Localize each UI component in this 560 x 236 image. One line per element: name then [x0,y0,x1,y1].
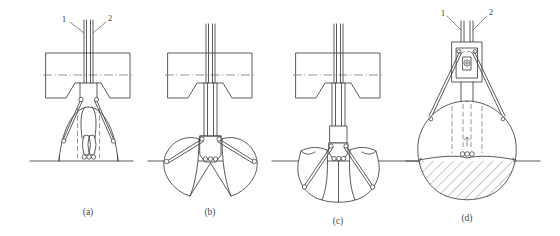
panel-a-pin-upper-right [94,97,98,101]
panel-a-pin-upper-left [79,97,83,101]
panel-b-pin-outer-left [164,159,168,163]
panel-c-pin-lower-right [370,185,374,189]
panel-d-leader-2 [473,16,487,30]
panel-b-head-block [168,53,252,98]
panel-b-pin-hinge-right [213,157,217,161]
panel-a-pin-hinge-left [82,155,86,159]
panel-a-closing-body-right [88,135,96,155]
panel-a-leader-1 [70,22,84,33]
panel-a-shell-right-lip [118,155,119,161]
caption-panel-a: (a) [83,207,94,218]
panel-d-pin-hinge-left [460,152,465,157]
panel-c-rod-sleeve [330,126,347,143]
panel-d-leader-1 [447,16,461,30]
panel-b-pin-hinge-mid [208,157,212,161]
panel-c-pin-upper-left [329,144,333,148]
panel-b-pin-hinge-left [203,157,207,161]
panel-c-pin-upper-right [344,144,348,148]
callout-2-panel-d: 2 [489,7,494,17]
panel-d-pin-shell-left [429,117,433,121]
panel-a-pin-lower-right [111,139,115,143]
panel-d [410,16,530,209]
caption-panel-c: (c) [333,216,344,227]
panel-d-hatch-area [410,161,530,209]
panel-c-pin-hinge-left [332,156,336,160]
panel-d-sheave-axle [466,62,468,64]
panel-d-pin-hinge-mid [465,152,470,157]
panel-a-pin-hinge-mid [87,155,91,159]
panel-c [293,24,383,202]
callout-1-panel-a: 1 [62,14,67,24]
panel-b-shell-left [164,138,199,196]
clamshell-bucket-figure: 1 2 1 2 (a) (b) (c) (d) [0,0,560,236]
figure-canvas: 1 2 1 2 (a) (b) (c) (d) [0,0,560,236]
panel-c-pin-hinge-right [341,156,345,160]
callout-2-panel-a: 2 [108,13,113,23]
panel-b [164,24,257,196]
panel-b-pin-upper-left [200,137,204,141]
panel-a-leader-2 [93,22,106,33]
panel-a [43,20,133,161]
panel-a-head-block [46,53,130,98]
panel-a-pin-lower-left [62,139,66,143]
panel-a-shell-left-lip [59,155,60,161]
panel-a-pin-hinge-right [91,155,95,159]
panel-c-head-block [296,53,380,98]
panel-c-pin-lower-left [302,185,306,189]
caption-panel-d: (d) [461,213,472,224]
panel-b-pin-upper-right [217,137,221,141]
panel-d-pin-shell-right [501,117,505,121]
panel-d-material-fill [410,161,530,209]
caption-panel-b: (b) [204,207,215,218]
panel-b-pin-outer-right [252,159,256,163]
callout-1-panel-d: 1 [441,8,446,18]
panel-d-pin-hinge-right [470,152,475,157]
panel-b-shell-right [222,138,257,196]
panel-c-pin-hinge-mid [337,156,341,160]
